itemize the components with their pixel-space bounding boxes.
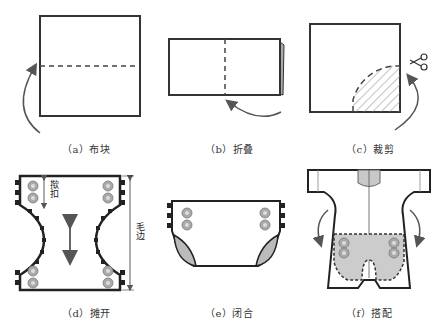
panel-a-cloth	[23, 16, 140, 133]
caption-a: （a）布块	[62, 141, 110, 156]
curved-arrow-icon	[318, 210, 328, 242]
panel-b-folded	[169, 39, 284, 116]
curved-arrow-icon	[230, 103, 281, 116]
panel-c-cut	[310, 24, 427, 130]
curved-arrow-icon	[23, 68, 40, 133]
caption-b: （b）折叠	[205, 141, 254, 156]
caption-d: （d）摊开	[62, 305, 111, 320]
caption-c: （c）裁剪	[346, 141, 394, 156]
panel-e-closed	[167, 201, 285, 266]
scissors-icon	[410, 54, 427, 70]
panel-f-romper	[308, 170, 430, 288]
caption-f: （f）搭配	[346, 305, 392, 320]
raw-edge-label: 毛边	[134, 222, 147, 240]
diagram-canvas	[0, 0, 444, 327]
snap-button-label: 揿扣	[48, 180, 61, 198]
caption-e: （e）闭合	[205, 305, 253, 320]
curved-arrow-icon	[410, 210, 420, 242]
panel-d-unfolded	[15, 176, 134, 290]
